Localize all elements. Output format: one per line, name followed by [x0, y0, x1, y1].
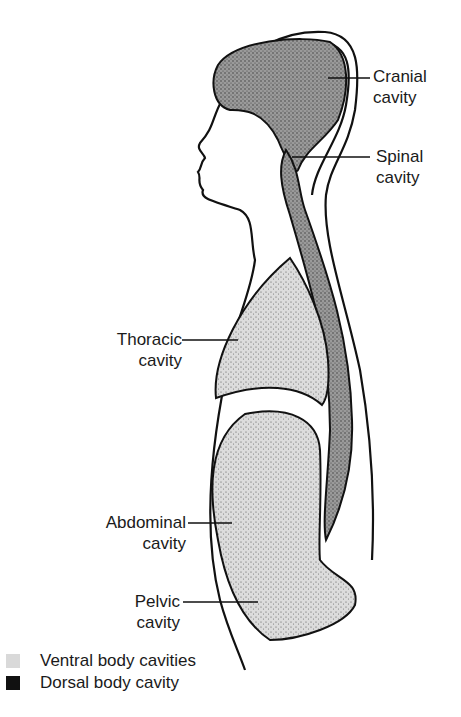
legend-item-ventral: Ventral body cavities: [6, 650, 196, 672]
legend: Ventral body cavities Dorsal body cavity: [6, 650, 196, 694]
label-cranial-cavity: Cranial cavity: [373, 66, 427, 108]
label-pelvic-cavity: Pelvic cavity: [110, 591, 180, 633]
legend-item-dorsal: Dorsal body cavity: [6, 672, 196, 694]
label-spinal-cavity: Spinal cavity: [376, 146, 423, 188]
label-thoracic-cavity: Thoracic cavity: [88, 329, 182, 371]
ventral-swatch-icon: [6, 654, 20, 668]
label-abdominal-cavity: Abdominal cavity: [76, 512, 186, 554]
dorsal-swatch-icon: [6, 676, 20, 690]
cranial-cavity: [214, 39, 347, 171]
